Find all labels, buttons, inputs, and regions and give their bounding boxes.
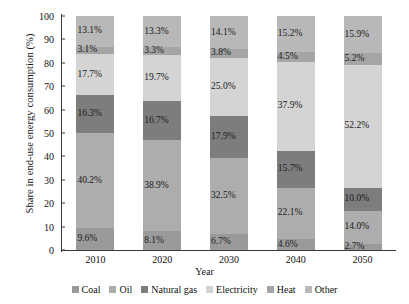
y-tick-label: 10 bbox=[44, 221, 61, 232]
legend-swatch-icon bbox=[141, 286, 148, 293]
legend-swatch-icon bbox=[206, 286, 213, 293]
bar-segment-electricity[interactable]: 37.9% bbox=[277, 62, 315, 151]
y-tick-label: 30 bbox=[44, 174, 61, 185]
plot-area: 13.1%3.1%17.7%16.3%40.2%9.6%13.3%3.3%19.… bbox=[62, 16, 396, 250]
bar-segment-other[interactable]: 13.3% bbox=[143, 16, 181, 47]
bar-segment-oil[interactable]: 14.0% bbox=[344, 211, 382, 244]
y-tick-label: 70 bbox=[44, 81, 61, 92]
bar-segment-other[interactable]: 14.1% bbox=[210, 16, 248, 49]
segment-value-label: 9.6% bbox=[77, 234, 97, 244]
y-tick-label: 40 bbox=[44, 151, 61, 162]
segment-value-label: 16.3% bbox=[77, 110, 102, 120]
bar-segment-oil[interactable]: 22.1% bbox=[277, 188, 315, 240]
segment-value-label: 17.7% bbox=[77, 70, 102, 80]
chart-legend: CoalOilNatural gasElectricityHeatOther bbox=[0, 284, 409, 295]
segment-value-label: 4.5% bbox=[278, 52, 298, 62]
legend-swatch-icon bbox=[267, 286, 274, 293]
segment-value-label: 14.0% bbox=[345, 223, 370, 233]
bar-segment-coal[interactable]: 2.7% bbox=[344, 244, 382, 250]
bar-segment-other[interactable]: 15.9% bbox=[344, 16, 382, 53]
bar-segment-heat[interactable]: 5.2% bbox=[344, 53, 382, 65]
bar-segment-electricity[interactable]: 52.2% bbox=[344, 65, 382, 187]
x-tick-label-2040: 2040 bbox=[266, 254, 326, 265]
legend-label: Electricity bbox=[216, 284, 258, 295]
bar-segment-heat[interactable]: 3.8% bbox=[210, 49, 248, 58]
legend-label: Heat bbox=[277, 284, 296, 295]
legend-label: Natural gas bbox=[151, 284, 197, 295]
bar-2020[interactable]: 13.3%3.3%19.7%16.7%38.9%8.1% bbox=[143, 16, 181, 250]
bar-segment-oil[interactable]: 40.2% bbox=[76, 133, 114, 227]
bar-segment-coal[interactable]: 8.1% bbox=[143, 231, 181, 250]
x-axis-title: Year bbox=[0, 266, 409, 277]
y-axis-title: Share in end-use energy consumption (%) bbox=[24, 0, 35, 249]
legend-item-electricity[interactable]: Electricity bbox=[206, 284, 258, 295]
bar-segment-oil[interactable]: 32.5% bbox=[210, 158, 248, 234]
segment-value-label: 5.2% bbox=[345, 55, 365, 65]
segment-value-label: 15.2% bbox=[278, 29, 303, 39]
x-tick-label-2050: 2050 bbox=[333, 254, 393, 265]
segment-value-label: 14.1% bbox=[211, 28, 236, 38]
x-tick-label-2020: 2020 bbox=[132, 254, 192, 265]
bar-2030[interactable]: 14.1%3.8%25.0%17.9%32.5%6.7% bbox=[210, 16, 248, 250]
bar-segment-heat[interactable]: 3.3% bbox=[143, 47, 181, 55]
legend-label: Coal bbox=[82, 284, 101, 295]
stacked-bar-chart: Share in end-use energy consumption (%) … bbox=[0, 0, 409, 304]
segment-value-label: 52.2% bbox=[345, 122, 370, 132]
bar-2010[interactable]: 13.1%3.1%17.7%16.3%40.2%9.6% bbox=[76, 16, 114, 250]
bar-segment-heat[interactable]: 3.1% bbox=[76, 47, 114, 54]
bar-segment-heat[interactable]: 4.5% bbox=[277, 52, 315, 63]
legend-item-coal[interactable]: Coal bbox=[72, 284, 101, 295]
segment-value-label: 25.0% bbox=[211, 82, 236, 92]
bar-segment-other[interactable]: 13.1% bbox=[76, 16, 114, 47]
legend-item-natural-gas[interactable]: Natural gas bbox=[141, 284, 197, 295]
bar-segment-electricity[interactable]: 25.0% bbox=[210, 58, 248, 117]
segment-value-label: 17.9% bbox=[211, 133, 236, 143]
legend-swatch-icon bbox=[109, 286, 116, 293]
segment-value-label: 3.8% bbox=[211, 49, 231, 59]
bar-segment-coal[interactable]: 6.7% bbox=[210, 234, 248, 250]
bar-segment-natural-gas[interactable]: 10.0% bbox=[344, 188, 382, 211]
bar-segment-other[interactable]: 15.2% bbox=[277, 16, 315, 52]
legend-swatch-icon bbox=[72, 286, 79, 293]
segment-value-label: 32.5% bbox=[211, 192, 236, 202]
segment-value-label: 22.1% bbox=[278, 209, 303, 219]
segment-value-label: 6.7% bbox=[211, 237, 231, 247]
legend-item-other[interactable]: Other bbox=[305, 284, 338, 295]
bar-segment-electricity[interactable]: 17.7% bbox=[76, 54, 114, 95]
bar-2040[interactable]: 15.2%4.5%37.9%15.7%22.1%4.6% bbox=[277, 16, 315, 250]
bar-segment-natural-gas[interactable]: 15.7% bbox=[277, 151, 315, 188]
bar-segment-coal[interactable]: 4.6% bbox=[277, 239, 315, 250]
segment-value-label: 38.9% bbox=[144, 181, 169, 191]
y-tick-label: 0 bbox=[49, 245, 61, 256]
segment-value-label: 15.9% bbox=[345, 30, 370, 40]
segment-value-label: 4.6% bbox=[278, 240, 298, 250]
legend-label: Other bbox=[315, 284, 338, 295]
segment-value-label: 15.7% bbox=[278, 164, 303, 174]
segment-value-label: 37.9% bbox=[278, 102, 303, 112]
segment-value-label: 19.7% bbox=[144, 73, 169, 83]
y-tick-label: 80 bbox=[44, 57, 61, 68]
legend-item-oil[interactable]: Oil bbox=[109, 284, 132, 295]
segment-value-label: 8.1% bbox=[144, 236, 164, 246]
bar-segment-electricity[interactable]: 19.7% bbox=[143, 55, 181, 101]
y-tick-label: 100 bbox=[39, 11, 61, 22]
bar-segment-natural-gas[interactable]: 16.3% bbox=[76, 95, 114, 133]
legend-swatch-icon bbox=[305, 286, 312, 293]
segment-value-label: 13.1% bbox=[77, 27, 102, 37]
legend-item-heat[interactable]: Heat bbox=[267, 284, 296, 295]
bar-segment-natural-gas[interactable]: 16.7% bbox=[143, 101, 181, 140]
y-tick-label: 60 bbox=[44, 104, 61, 115]
y-tick-label: 90 bbox=[44, 34, 61, 45]
segment-value-label: 13.3% bbox=[144, 27, 169, 37]
segment-value-label: 10.0% bbox=[345, 194, 370, 204]
segment-value-label: 2.7% bbox=[345, 242, 365, 252]
x-tick-label-2010: 2010 bbox=[65, 254, 125, 265]
legend-label: Oil bbox=[119, 284, 132, 295]
bar-segment-oil[interactable]: 38.9% bbox=[143, 140, 181, 231]
bar-2050[interactable]: 15.9%5.2%52.2%10.0%14.0%2.7% bbox=[344, 16, 382, 250]
segment-value-label: 40.2% bbox=[77, 176, 102, 186]
y-tick-label: 20 bbox=[44, 198, 61, 209]
x-tick-label-2030: 2030 bbox=[199, 254, 259, 265]
bar-segment-natural-gas[interactable]: 17.9% bbox=[210, 116, 248, 158]
bar-segment-coal[interactable]: 9.6% bbox=[76, 228, 114, 250]
